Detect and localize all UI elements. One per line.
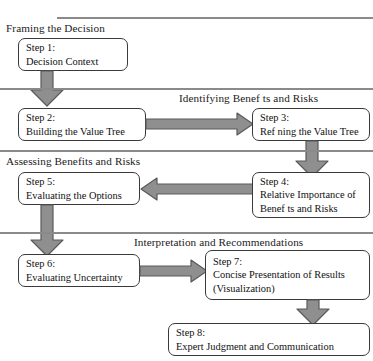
step-4-body-2: Benef ts and Risks [260,202,363,215]
step-6-title: Step 6: [26,257,133,270]
arrow-step2-to-step3 [146,113,254,137]
phase-divider-2 [0,88,373,90]
phase-label-assessing: Assessing Benefits and Risks [6,155,140,167]
step-8-title: Step 8: [176,326,363,339]
step-box-8[interactable]: Step 8: Expert Judgment and Communicatio… [168,323,370,356]
arrow-step4-to-step5 [140,178,254,202]
step-2-body: Building the Value Tree [26,125,139,138]
arrow-step6-to-step7 [140,260,208,284]
step-box-5[interactable]: Step 5: Evaluating the Options [18,172,140,205]
step-8-body: Expert Judgment and Communication [176,340,363,353]
step-7-body: Concise Presentation of Results [213,268,363,281]
step-7-title: Step 7: [213,255,363,268]
arrow-step5-to-step6 [30,205,64,257]
phase-label-framing: Framing the Decision [6,22,105,34]
step-box-4[interactable]: Step 4: Relative Importance of Benef ts … [252,172,370,218]
step-5-body: Evaluating the Options [26,189,133,202]
phase-label-interpretation: Interpretation and Recommendations [134,236,303,248]
step-7-body-2: (Visualization) [213,282,363,295]
phase-label-identifying: Identifying Benef ts and Risks [179,92,318,104]
step-2-title: Step 2: [26,111,139,124]
step-4-body: Relative Importance of [260,188,363,201]
step-box-7[interactable]: Step 7: Concise Presentation of Results … [205,250,370,300]
step-3-body: Ref ning the Value Tree [260,125,363,138]
phase-divider-4 [0,232,373,234]
step-box-2[interactable]: Step 2: Building the Value Tree [18,108,146,141]
step-box-1[interactable]: Step 1: Decision Context [18,38,128,71]
step-6-body: Evaluating Uncertainty [26,271,133,284]
step-3-title: Step 3: [260,111,363,124]
step-4-title: Step 4: [260,175,363,188]
step-box-3[interactable]: Step 3: Ref ning the Value Tree [252,108,370,141]
phase-divider-3 [0,150,373,152]
flowchart-canvas: Framing the Decision Step 1: Decision Co… [0,0,373,361]
phase-divider-1 [57,17,373,19]
step-1-body: Decision Context [26,55,121,68]
step-1-title: Step 1: [26,41,121,54]
step-5-title: Step 5: [26,175,133,188]
step-box-6[interactable]: Step 6: Evaluating Uncertainty [18,254,140,287]
